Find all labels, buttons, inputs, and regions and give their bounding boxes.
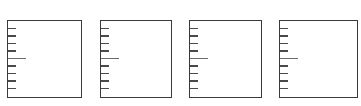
- scale-tick: [101, 28, 109, 30]
- scale-tick: [8, 73, 16, 75]
- panel-4: [279, 20, 358, 98]
- panel-2: [100, 20, 172, 98]
- scale-tick: [280, 73, 288, 75]
- scale-midpoint-tick: [101, 58, 119, 60]
- scale-tick: [280, 35, 288, 37]
- scale-tick: [190, 88, 198, 90]
- scale-tick: [101, 80, 109, 82]
- scale-tick: [8, 80, 16, 82]
- scale-midpoint-tick: [190, 58, 208, 60]
- panel-1: [7, 20, 82, 98]
- scale-tick: [101, 35, 109, 37]
- scale-tick: [8, 88, 16, 90]
- scale-tick: [190, 28, 198, 30]
- panel-3: [189, 20, 262, 98]
- scale-tick: [280, 88, 288, 90]
- scale-tick: [101, 43, 109, 45]
- scale-tick: [101, 73, 109, 75]
- scale-tick: [8, 65, 16, 67]
- scale-tick: [190, 50, 198, 52]
- scale-tick: [190, 43, 198, 45]
- scale-tick: [280, 80, 288, 82]
- scale-tick: [8, 50, 16, 52]
- scale-tick: [190, 35, 198, 37]
- scale-tick: [280, 43, 288, 45]
- scale-tick: [101, 50, 109, 52]
- scale-tick: [8, 43, 16, 45]
- scale-midpoint-tick: [280, 58, 298, 60]
- scale-tick: [280, 28, 288, 30]
- scale-tick: [8, 28, 16, 30]
- scale-tick: [101, 88, 109, 90]
- scale-tick: [280, 50, 288, 52]
- scale-tick: [280, 65, 288, 67]
- scale-tick: [101, 65, 109, 67]
- scale-tick: [190, 65, 198, 67]
- scale-tick: [8, 35, 16, 37]
- scale-tick: [190, 73, 198, 75]
- scale-tick: [190, 80, 198, 82]
- scale-midpoint-tick: [8, 58, 26, 60]
